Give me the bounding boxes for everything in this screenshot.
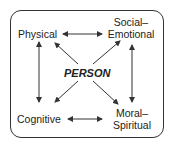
- node-moral-line2: Spiritual: [108, 119, 156, 131]
- node-social-line1: Social–: [105, 16, 157, 28]
- arrow-person-social: [93, 41, 120, 64]
- node-moral-spiritual: Moral– Spiritual: [108, 107, 156, 131]
- node-physical: Physical: [18, 28, 57, 40]
- node-social-emotional: Social– Emotional: [105, 16, 157, 40]
- arrow-person-moral: [93, 81, 118, 104]
- node-moral-line1: Moral–: [108, 107, 156, 119]
- node-social-line2: Emotional: [105, 28, 157, 40]
- center-person: PERSON: [64, 67, 110, 79]
- arrow-person-cognitive: [55, 81, 78, 102]
- arrow-person-physical: [55, 43, 78, 64]
- node-cognitive: Cognitive: [17, 113, 61, 125]
